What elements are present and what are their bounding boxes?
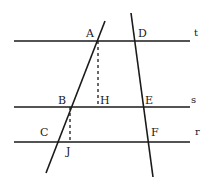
- line-label-s: s: [191, 95, 196, 105]
- geometry-canvas: [0, 0, 209, 177]
- point-label-f: F: [151, 127, 159, 138]
- point-label-d: D: [138, 28, 147, 39]
- dashed-segments-group: [70, 41, 98, 142]
- point-label-h: H: [100, 95, 110, 106]
- geometry-figure: ADBHECFJ tsr: [0, 0, 209, 177]
- point-label-c: C: [40, 127, 48, 138]
- point-label-b: B: [58, 95, 66, 106]
- transversal-left: [46, 21, 105, 173]
- point-label-a: A: [86, 28, 94, 39]
- line-label-r: r: [195, 127, 200, 137]
- line-label-t: t: [194, 28, 198, 38]
- point-label-j: J: [66, 146, 70, 157]
- point-label-e: E: [145, 95, 153, 106]
